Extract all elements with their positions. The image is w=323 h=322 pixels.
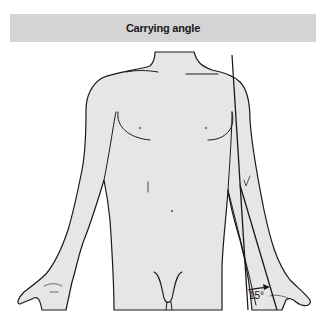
navel xyxy=(171,210,173,212)
angle-label: 15° xyxy=(249,290,264,301)
left-nipple xyxy=(139,127,142,130)
body-silhouette xyxy=(18,52,310,310)
carrying-angle-figure xyxy=(0,0,323,322)
right-nipple xyxy=(205,127,208,130)
